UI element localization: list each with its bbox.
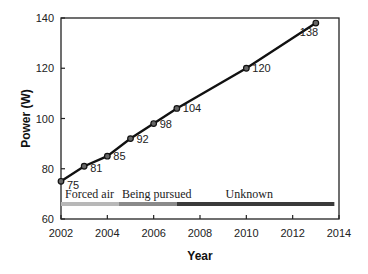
data-label: 85: [113, 150, 125, 162]
data-point: [151, 121, 157, 127]
x-tick-label: 2008: [188, 227, 212, 239]
y-tick-label: 120: [36, 62, 54, 74]
data-label: 98: [160, 118, 172, 130]
y-axis-title: Power (W): [19, 89, 33, 148]
y-tick-label: 100: [36, 113, 54, 125]
cooling-method-bands: Forced airBeing pursuedUnknown: [61, 187, 334, 204]
data-label: 138: [300, 26, 318, 38]
data-label: 81: [90, 162, 102, 174]
data-label: 120: [252, 62, 270, 74]
x-tick-label: 2004: [95, 227, 119, 239]
data-point: [128, 136, 134, 142]
data-label: 104: [183, 102, 201, 114]
band-label: Unknown: [226, 187, 273, 201]
x-axis-title: Year: [187, 249, 213, 263]
y-tick-label: 140: [36, 12, 54, 24]
data-point: [313, 20, 319, 26]
data-point: [105, 153, 111, 159]
y-tick-label: 60: [42, 213, 54, 225]
data-label: 75: [67, 179, 79, 191]
band-label: Being pursued: [122, 187, 192, 201]
x-tick-label: 2010: [234, 227, 258, 239]
data-point: [58, 179, 64, 185]
data-point: [244, 65, 250, 71]
x-tick-label: 2012: [280, 227, 304, 239]
x-tick-label: 2002: [49, 227, 73, 239]
data-point: [174, 106, 180, 112]
power-vs-year-chart: 6080100120140 20022004200620082010201220…: [0, 0, 368, 274]
x-tick-label: 2014: [327, 227, 351, 239]
power-series: 7581859298104120138: [58, 20, 318, 191]
x-tick-label: 2006: [141, 227, 165, 239]
data-point: [81, 163, 87, 169]
data-label: 92: [137, 133, 149, 145]
y-tick-label: 80: [42, 163, 54, 175]
